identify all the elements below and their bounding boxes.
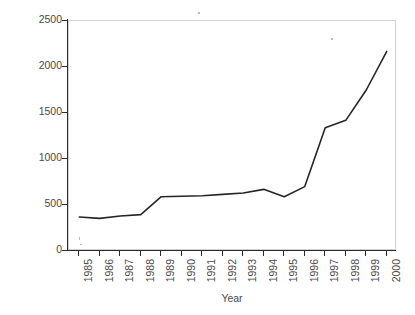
x-tick-label: 2000 (391, 259, 402, 293)
x-tick-label: 1986 (104, 259, 115, 293)
x-axis-tick-labels: 1985198619871988198919901991199219931994… (0, 0, 415, 315)
x-tick-label: 1999 (370, 259, 381, 293)
x-tick-label: 1997 (329, 259, 340, 293)
x-tick-label: 1993 (247, 259, 258, 293)
x-tick-label: 1990 (186, 259, 197, 293)
x-tick-label: 1989 (165, 259, 176, 293)
scan-speck (80, 244, 82, 245)
line-chart: Number of articles 05001000150020002500 … (0, 0, 415, 315)
x-tick-label: 1992 (227, 259, 238, 293)
x-tick-label: 1996 (309, 259, 320, 293)
x-tick-label: 1988 (145, 259, 156, 293)
x-tick-label: 1994 (268, 259, 279, 293)
scan-speck (198, 12, 200, 14)
x-axis-title: Year (68, 292, 396, 304)
scan-speck (79, 237, 80, 240)
x-tick-label: 1995 (288, 259, 299, 293)
scan-speck (331, 38, 333, 40)
x-tick-label: 1985 (83, 259, 94, 293)
x-tick-label: 1991 (206, 259, 217, 293)
x-tick-label: 1998 (350, 259, 361, 293)
x-tick-label: 1987 (124, 259, 135, 293)
